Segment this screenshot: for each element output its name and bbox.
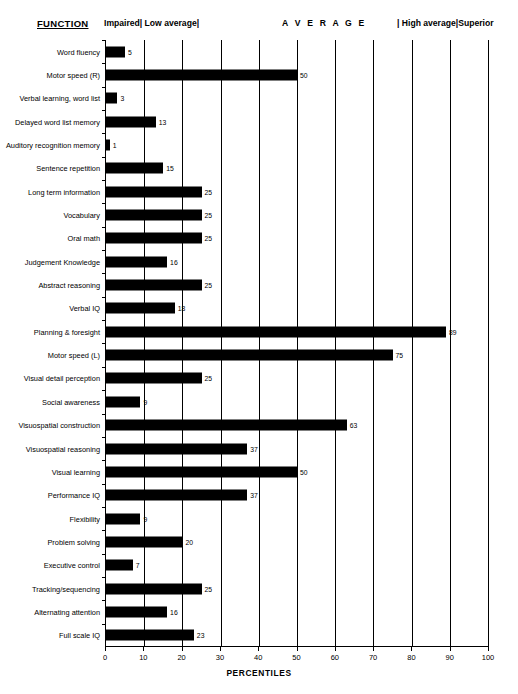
- bar-value-label: 15: [166, 165, 174, 172]
- row-label: Auditory recognition memory: [6, 141, 100, 150]
- row-label: Motor speed (R): [47, 71, 100, 80]
- tick-label-70: 70: [369, 653, 377, 662]
- bar: [106, 280, 202, 291]
- bar-value-label: 13: [159, 118, 167, 125]
- bar-value-label: 25: [205, 375, 213, 382]
- row-label: Verbal learning, word list: [19, 94, 100, 103]
- row-label: Full scale IQ: [59, 631, 100, 640]
- row-tick: [102, 343, 106, 344]
- bar-row: Social awareness9: [106, 390, 488, 413]
- row-tick: [102, 554, 106, 555]
- tick-label-100: 100: [482, 653, 495, 662]
- bar: [106, 420, 347, 431]
- row-tick: [102, 250, 106, 251]
- bar: [106, 303, 175, 314]
- bar-row: Auditory recognition memory1: [106, 133, 488, 156]
- bar: [106, 536, 182, 547]
- bar-row: Motor speed (L)75: [106, 343, 488, 366]
- bar: [106, 630, 194, 641]
- bar-row: Problem solving20: [106, 530, 488, 553]
- bar-value-label: 16: [170, 258, 178, 265]
- bar: [106, 606, 167, 617]
- bar: [106, 396, 140, 407]
- tick-30: [220, 647, 221, 651]
- bar-value-label: 37: [250, 492, 258, 499]
- tick-50: [297, 647, 298, 651]
- bar: [106, 373, 202, 384]
- bar-row: Long term information25: [106, 180, 488, 203]
- bar-value-label: 50: [300, 468, 308, 475]
- row-tick: [102, 507, 106, 508]
- row-label: Social awareness: [42, 397, 100, 406]
- row-label: Oral math: [68, 234, 100, 243]
- row-label: Vocabulary: [63, 211, 100, 220]
- row-tick: [102, 437, 106, 438]
- row-tick: [102, 390, 106, 391]
- tick-label-80: 80: [407, 653, 415, 662]
- row-tick: [102, 180, 106, 181]
- bar-row: Abstract reasoning25: [106, 273, 488, 296]
- row-label: Alternating attention: [34, 607, 100, 616]
- bar-value-label: 9: [143, 398, 147, 405]
- row-tick: [102, 87, 106, 88]
- tick-label-50: 50: [292, 653, 300, 662]
- band-label-high-average-superior: | High average|Superior: [397, 18, 494, 28]
- function-column-title: FUNCTION: [37, 18, 88, 29]
- bar: [106, 46, 125, 57]
- row-label: Visuospatial reasoning: [26, 444, 100, 453]
- bar: [106, 186, 202, 197]
- x-axis-title: PERCENTILES: [0, 668, 518, 678]
- row-label: Visual detail perception: [24, 374, 100, 383]
- tick-label-90: 90: [446, 653, 454, 662]
- bar-value-label: 37: [250, 445, 258, 452]
- bar-value-label: 3: [120, 95, 124, 102]
- bar-row: Oral math25: [106, 227, 488, 250]
- row-label: Abstract reasoning: [38, 281, 100, 290]
- percentile-profile-chart: FUNCTION Impaired| Low average| A V E R …: [0, 0, 518, 694]
- tick-100: [488, 647, 489, 651]
- tick-label-20: 20: [177, 653, 185, 662]
- bar-row: Word fluency5: [106, 40, 488, 63]
- bar: [106, 443, 247, 454]
- bar-value-label: 20: [185, 538, 193, 545]
- bar-value-label: 25: [205, 585, 213, 592]
- gridline-100: [488, 40, 489, 647]
- bar-row: Delayed word list memory13: [106, 110, 488, 133]
- row-label: Problem solving: [47, 537, 100, 546]
- bar-row: Visual detail perception25: [106, 367, 488, 390]
- bar: [106, 350, 393, 361]
- row-label: Motor speed (L): [48, 351, 100, 360]
- row-label: Verbal IQ: [69, 304, 100, 313]
- bar-row: Tracking/sequencing25: [106, 577, 488, 600]
- band-label-impaired-low-average: Impaired| Low average|: [104, 18, 199, 28]
- row-label: Executive control: [44, 561, 100, 570]
- chart-header: FUNCTION Impaired| Low average| A V E R …: [0, 18, 518, 34]
- bar-value-label: 89: [449, 328, 457, 335]
- row-label: Judgement Knowledge: [25, 257, 100, 266]
- row-tick: [102, 320, 106, 321]
- row-label: Delayed word list memory: [15, 117, 100, 126]
- tick-70: [373, 647, 374, 651]
- bar-value-label: 75: [396, 352, 404, 359]
- row-label: Word fluency: [57, 47, 100, 56]
- tick-80: [411, 647, 412, 651]
- bar-row: Performance IQ37: [106, 484, 488, 507]
- bar-row: Motor speed (R)50: [106, 63, 488, 86]
- bar: [106, 210, 202, 221]
- bar-row: Vocabulary25: [106, 203, 488, 226]
- bar-row: Visuospatial construction63: [106, 414, 488, 437]
- bar-value-label: 18: [178, 305, 186, 312]
- tick-label-10: 10: [139, 653, 147, 662]
- row-label: Visual learning: [52, 467, 100, 476]
- row-label: Visuospatial construction: [18, 421, 100, 430]
- tick-90: [450, 647, 451, 651]
- row-tick: [102, 600, 106, 601]
- row-label: Sentence repetition: [36, 164, 100, 173]
- bar: [106, 560, 133, 571]
- row-tick: [102, 530, 106, 531]
- row-tick: [102, 273, 106, 274]
- row-tick: [102, 157, 106, 158]
- bar-value-label: 1: [113, 142, 117, 149]
- row-label: Tracking/sequencing: [32, 584, 100, 593]
- bar: [106, 513, 140, 524]
